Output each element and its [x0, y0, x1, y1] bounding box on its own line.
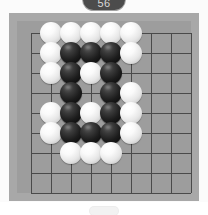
- go-stone-white: [40, 22, 62, 44]
- go-stone-white: [60, 142, 82, 164]
- go-stone-black: [60, 102, 82, 124]
- grid-line-horizontal: [31, 193, 191, 194]
- go-board-surface[interactable]: [17, 21, 191, 193]
- go-stone-white: [100, 22, 122, 44]
- go-stone-black: [80, 122, 102, 144]
- go-board-screenshot: 56: [0, 0, 208, 215]
- go-stone-black: [100, 42, 122, 64]
- go-stone-black: [100, 102, 122, 124]
- grid-line-vertical: [151, 33, 152, 193]
- go-stone-white: [40, 102, 62, 124]
- go-board-frame: [9, 13, 199, 201]
- go-stone-white: [60, 22, 82, 44]
- go-stone-white: [80, 142, 102, 164]
- go-stone-white: [40, 42, 62, 64]
- grid-line-vertical: [171, 33, 172, 193]
- go-stone-white: [120, 22, 142, 44]
- go-stone-black: [60, 42, 82, 64]
- bottom-control-ghost[interactable]: [90, 207, 118, 215]
- go-stone-white: [100, 142, 122, 164]
- go-stone-black: [100, 82, 122, 104]
- go-stone-black: [100, 62, 122, 84]
- move-number-label: 56: [97, 0, 110, 10]
- go-stone-white: [120, 42, 142, 64]
- go-stone-white: [40, 122, 62, 144]
- go-stone-black: [60, 62, 82, 84]
- grid-line-vertical: [31, 33, 32, 193]
- grid-line-vertical: [191, 33, 192, 193]
- go-stone-white: [120, 102, 142, 124]
- go-stone-white: [80, 102, 102, 124]
- go-stone-black: [100, 122, 122, 144]
- move-number-badge: 56: [83, 0, 125, 10]
- go-stone-white: [80, 22, 102, 44]
- go-stone-black: [80, 42, 102, 64]
- go-stone-white: [40, 62, 62, 84]
- go-stone-black: [60, 122, 82, 144]
- go-stone-white: [120, 82, 142, 104]
- go-stone-white: [80, 62, 102, 84]
- go-stone-black: [60, 82, 82, 104]
- go-stone-white: [120, 122, 142, 144]
